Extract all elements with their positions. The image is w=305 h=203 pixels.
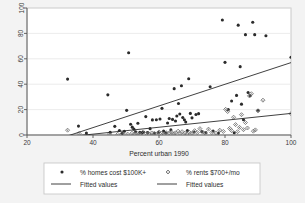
data-point-rents-center bbox=[211, 132, 212, 133]
data-point-homes bbox=[240, 103, 243, 106]
data-point-rents-center bbox=[223, 131, 224, 132]
y-axis-tick-label: 80 bbox=[18, 29, 25, 37]
chart-figure: 02040608010020406080100Percent urban 199… bbox=[0, 0, 305, 203]
data-point-rents-center bbox=[241, 114, 242, 115]
data-point-homes bbox=[144, 115, 147, 118]
data-point-homes bbox=[230, 99, 233, 102]
data-point-homes bbox=[239, 65, 242, 68]
legend-marker-rents-center bbox=[167, 171, 168, 172]
plot-area-background bbox=[27, 8, 291, 135]
x-axis-tick-label: 100 bbox=[286, 139, 297, 146]
data-point-rents-center bbox=[239, 127, 240, 128]
data-point-homes bbox=[166, 122, 169, 125]
data-point-rents-center bbox=[257, 110, 258, 111]
data-point-rents-center bbox=[219, 130, 220, 131]
scatter-plot: 02040608010020406080100Percent urban 199… bbox=[0, 0, 305, 203]
data-point-rents-center bbox=[205, 133, 206, 134]
data-point-homes bbox=[125, 109, 128, 112]
legend-label: Fitted values bbox=[186, 181, 224, 188]
data-point-homes bbox=[221, 19, 224, 22]
data-point-homes bbox=[184, 120, 187, 123]
data-point-rents-center bbox=[255, 129, 256, 130]
x-axis-tick-label: 80 bbox=[221, 139, 229, 146]
data-point-homes bbox=[189, 112, 192, 115]
data-point-rents-center bbox=[231, 130, 232, 131]
data-point-homes bbox=[174, 119, 177, 122]
data-point-rents-center bbox=[171, 132, 172, 133]
data-point-homes bbox=[173, 87, 176, 90]
legend-marker-homes bbox=[60, 170, 63, 173]
data-point-rents-center bbox=[197, 132, 198, 133]
y-axis-tick-label: 40 bbox=[18, 80, 25, 88]
data-point-rents-center bbox=[158, 131, 159, 132]
data-point-homes bbox=[127, 51, 130, 54]
data-point-rents-center bbox=[187, 133, 188, 134]
data-point-rents-center bbox=[249, 95, 250, 96]
data-point-homes bbox=[235, 94, 238, 97]
y-axis-tick-label: 0 bbox=[18, 133, 25, 137]
data-point-homes bbox=[155, 118, 158, 121]
y-axis-tick-label: 20 bbox=[18, 106, 25, 114]
data-point-rents-center bbox=[191, 133, 192, 134]
data-point-rents-center bbox=[227, 111, 228, 112]
data-point-rents-center bbox=[225, 109, 226, 110]
data-point-rents-center bbox=[247, 127, 248, 128]
data-point-rents-center bbox=[127, 134, 128, 135]
data-point-homes bbox=[77, 125, 80, 128]
data-point-rents-center bbox=[262, 100, 263, 101]
legend-label: % rents $700+/mo bbox=[186, 169, 240, 176]
data-point-rents-center bbox=[245, 122, 246, 123]
data-point-rents-center bbox=[168, 133, 169, 134]
data-point-homes bbox=[197, 112, 200, 115]
data-point-rents-center bbox=[194, 130, 195, 131]
data-point-homes bbox=[85, 132, 88, 135]
data-point-homes bbox=[180, 84, 183, 87]
x-axis-tick-label: 60 bbox=[155, 139, 163, 146]
x-axis-tick-label: 20 bbox=[23, 139, 31, 146]
data-point-rents-center bbox=[182, 131, 183, 132]
y-axis-tick-label: 60 bbox=[18, 55, 25, 63]
data-point-rents-center bbox=[163, 133, 164, 134]
x-axis-tick-label: 40 bbox=[89, 139, 97, 146]
data-point-rents-center bbox=[67, 130, 68, 131]
data-point-homes bbox=[177, 102, 180, 105]
data-point-homes bbox=[251, 21, 254, 24]
data-point-homes bbox=[136, 122, 139, 125]
data-point-rents-center bbox=[199, 128, 200, 129]
data-point-homes bbox=[158, 117, 161, 120]
data-point-homes bbox=[171, 118, 174, 121]
data-point-rents-center bbox=[208, 129, 209, 130]
x-axis-title: Percent urban 1990 bbox=[129, 150, 189, 157]
data-point-homes bbox=[237, 24, 240, 27]
data-point-homes bbox=[175, 114, 178, 117]
data-point-rents-center bbox=[233, 117, 234, 118]
data-point-homes bbox=[209, 85, 212, 88]
data-point-rents-center bbox=[229, 128, 230, 129]
legend-label: Fitted values bbox=[80, 181, 118, 188]
data-point-rents-center bbox=[189, 132, 190, 133]
data-point-homes bbox=[223, 61, 226, 64]
data-point-rents-center bbox=[139, 134, 140, 135]
data-point-homes bbox=[106, 93, 109, 96]
data-point-homes bbox=[113, 125, 116, 128]
data-point-homes bbox=[244, 33, 247, 36]
data-point-homes bbox=[66, 78, 69, 81]
data-point-rents-center bbox=[142, 132, 143, 133]
data-point-homes bbox=[151, 118, 154, 121]
data-point-homes bbox=[194, 113, 197, 116]
data-point-rents-center bbox=[180, 133, 181, 134]
data-point-rents-center bbox=[154, 133, 155, 134]
data-point-rents-center bbox=[235, 124, 236, 125]
data-point-rents-center bbox=[156, 134, 157, 135]
data-point-homes bbox=[253, 33, 256, 36]
data-point-homes bbox=[190, 116, 193, 119]
data-point-rents-center bbox=[122, 133, 123, 134]
data-point-rents-center bbox=[251, 93, 252, 94]
data-point-rents-center bbox=[175, 132, 176, 133]
y-axis-tick-label: 100 bbox=[18, 2, 25, 13]
data-point-homes bbox=[264, 34, 267, 37]
data-point-homes bbox=[160, 107, 163, 110]
data-point-rents-center bbox=[109, 133, 110, 134]
legend-label: % homes cost $100K+ bbox=[80, 169, 146, 176]
legend: % homes cost $100K+% rents $700+/moFitte… bbox=[44, 163, 260, 194]
